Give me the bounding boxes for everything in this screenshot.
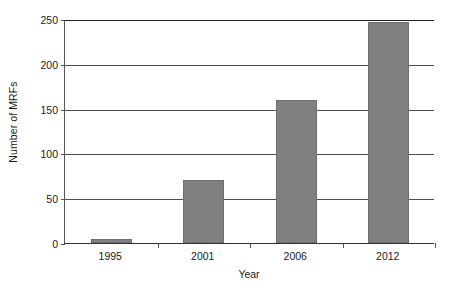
y-tickmark-0 bbox=[61, 244, 65, 245]
y-tickmark-200 bbox=[61, 65, 65, 66]
plot-area bbox=[64, 20, 434, 244]
y-axis-tick-labels: 050100150200250 bbox=[26, 0, 62, 260]
y-tickmark-250 bbox=[61, 20, 65, 21]
x-tick-label: 2012 bbox=[342, 250, 435, 262]
x-tick-label: 1995 bbox=[64, 250, 157, 262]
x-tickmark bbox=[343, 243, 344, 248]
x-tick-label: 2006 bbox=[249, 250, 342, 262]
x-tick-label: 2001 bbox=[157, 250, 250, 262]
y-tickmark-50 bbox=[61, 199, 65, 200]
x-axis-tick-labels: 1995200120062012 bbox=[64, 250, 434, 266]
x-axis-title-text: Year bbox=[238, 268, 259, 280]
y-tick-label: 250 bbox=[40, 15, 58, 26]
x-tickmark bbox=[435, 243, 436, 248]
bar-2001 bbox=[183, 180, 224, 243]
x-tickmark bbox=[158, 243, 159, 248]
x-tickmark bbox=[250, 243, 251, 248]
y-tick-label: 200 bbox=[40, 60, 58, 71]
y-tick-label: 100 bbox=[40, 149, 58, 160]
y-tick-label: 150 bbox=[40, 105, 58, 116]
y-tick-label: 0 bbox=[52, 239, 58, 250]
y-tickmark-150 bbox=[61, 110, 65, 111]
bar-chart-figure: Number of MRFs 050100150200250 199520012… bbox=[0, 0, 456, 292]
y-tickmark-100 bbox=[61, 154, 65, 155]
y-axis-title: Number of MRFs bbox=[0, 0, 26, 244]
y-tick-label: 50 bbox=[46, 194, 58, 205]
bar-2012 bbox=[368, 22, 409, 243]
x-axis-title: Year bbox=[64, 268, 434, 280]
y-axis-title-text: Number of MRFs bbox=[7, 81, 19, 162]
bar-2006 bbox=[276, 100, 317, 243]
bar-1995 bbox=[91, 239, 132, 243]
